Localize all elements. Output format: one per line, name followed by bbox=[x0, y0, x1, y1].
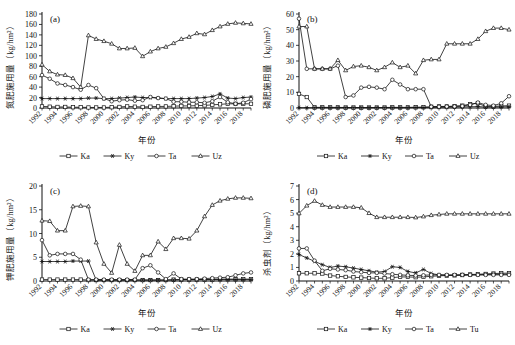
legend-label: Ky bbox=[382, 152, 392, 161]
legend-item-ka[interactable]: Ka bbox=[317, 152, 348, 161]
legend-item-uz[interactable]: Uz bbox=[192, 325, 223, 334]
y-tick-label: 15 bbox=[29, 206, 37, 215]
legend-label: Ka bbox=[338, 325, 348, 334]
y-tick-label: 7 bbox=[290, 182, 294, 191]
y-tick-label: 5 bbox=[33, 253, 37, 262]
x-tick-label: 2018 bbox=[486, 109, 503, 126]
chart-panel-b: 磷肥施用量（kg/hm²） 01020304050601992199419961… bbox=[257, 0, 515, 172]
series-ta bbox=[297, 17, 511, 109]
y-tick-label: 50 bbox=[286, 26, 294, 35]
x-tick-label: 2010 bbox=[423, 109, 440, 126]
x-tick-label: 2016 bbox=[470, 282, 487, 299]
x-tick-label: 2010 bbox=[166, 282, 183, 299]
x-tick-label: 1992 bbox=[283, 282, 300, 299]
legend-item-ta[interactable]: Ta bbox=[405, 152, 434, 161]
legend-label: Ka bbox=[338, 152, 348, 161]
legend-label: Ky bbox=[125, 325, 135, 334]
x-tick-label: 2012 bbox=[181, 109, 198, 126]
x-tick-label: 2008 bbox=[150, 282, 167, 299]
y-tick-label: 10 bbox=[286, 88, 294, 97]
legend-item-ky[interactable]: Ky bbox=[104, 325, 135, 334]
x-axis-label: 年份 bbox=[138, 308, 156, 318]
legend-label: Ky bbox=[125, 152, 135, 161]
legend-item-tu[interactable]: Tu bbox=[449, 325, 479, 334]
x-tick-label: 2000 bbox=[346, 109, 363, 126]
legend-label: Ka bbox=[81, 325, 91, 334]
y-tick-label: 30 bbox=[286, 57, 294, 66]
x-tick-label: 1994 bbox=[299, 282, 316, 299]
y-tick-label: 40 bbox=[286, 41, 294, 50]
panel-tag: (a) bbox=[50, 14, 60, 24]
legend-item-ky[interactable]: Ky bbox=[361, 152, 392, 161]
legend-item-ta[interactable]: Ta bbox=[405, 325, 434, 334]
legend-label: Uz bbox=[470, 152, 480, 161]
legend-label: Uz bbox=[213, 152, 223, 161]
y-tick-label: 2 bbox=[290, 250, 294, 259]
x-tick-label: 2016 bbox=[212, 282, 229, 299]
x-tick-label: 2008 bbox=[408, 282, 425, 299]
y-tick-label: 6 bbox=[290, 196, 294, 205]
x-tick-label: 2006 bbox=[392, 282, 409, 299]
x-tick-label: 1994 bbox=[42, 282, 59, 299]
y-tick-label: 20 bbox=[29, 94, 37, 103]
chart-panel-c: 钾肥施用量（kg/hm²） 05101520199219941996199820… bbox=[0, 172, 257, 345]
y-tick-label: 80 bbox=[29, 62, 37, 71]
y-tick-label: 20 bbox=[29, 182, 37, 191]
x-tick-label: 2016 bbox=[212, 109, 229, 126]
x-tick-label: 2002 bbox=[104, 109, 121, 126]
x-tick-label: 2006 bbox=[392, 109, 409, 126]
x-tick-label: 2002 bbox=[104, 282, 121, 299]
x-tick-label: 2008 bbox=[408, 109, 425, 126]
panel-tag: (c) bbox=[50, 186, 60, 196]
legend-item-uz[interactable]: Uz bbox=[192, 152, 223, 161]
plot-area-a: 0204060801001201401601801992199419961998… bbox=[0, 0, 257, 172]
y-tick-label: 180 bbox=[25, 10, 37, 19]
legend-label: Ta bbox=[169, 152, 177, 161]
legend-label: Ta bbox=[426, 152, 434, 161]
figure-container: 氮肥施用量（kg/hm²） 02040608010012014016018019… bbox=[0, 0, 515, 345]
x-tick-label: 2014 bbox=[197, 282, 214, 299]
x-tick-label: 2018 bbox=[228, 109, 245, 126]
legend-label: Ka bbox=[81, 152, 91, 161]
x-tick-label: 1994 bbox=[42, 109, 59, 126]
x-tick-label: 2010 bbox=[423, 282, 440, 299]
y-tick-label: 40 bbox=[29, 83, 37, 92]
legend-item-ky[interactable]: Ky bbox=[104, 152, 135, 161]
x-tick-label: 1992 bbox=[26, 282, 43, 299]
y-tick-label: 4 bbox=[290, 223, 294, 232]
x-tick-label: 1994 bbox=[299, 109, 316, 126]
series-uz bbox=[40, 21, 253, 89]
x-tick-label: 2004 bbox=[377, 109, 394, 126]
x-tick-label: 2004 bbox=[119, 282, 136, 299]
x-tick-label: 2010 bbox=[166, 109, 183, 126]
x-tick-label: 1998 bbox=[330, 109, 347, 126]
series-tu bbox=[297, 199, 511, 219]
y-tick-label: 5 bbox=[290, 209, 294, 218]
x-tick-label: 2012 bbox=[439, 109, 456, 126]
legend-item-ky[interactable]: Ky bbox=[361, 325, 392, 334]
legend-item-ta[interactable]: Ta bbox=[148, 152, 177, 161]
legend-item-ka[interactable]: Ka bbox=[60, 325, 91, 334]
x-axis-label: 年份 bbox=[395, 135, 413, 145]
x-tick-label: 2014 bbox=[197, 109, 214, 126]
y-tick-label: 3 bbox=[290, 236, 294, 245]
x-tick-label: 2014 bbox=[455, 282, 472, 299]
plot-area-b: 0102030405060199219941996199820002002200… bbox=[257, 0, 515, 172]
y-tick-label: 160 bbox=[25, 20, 37, 29]
x-tick-label: 1996 bbox=[315, 282, 332, 299]
panel-tag: (b) bbox=[307, 14, 318, 24]
legend-item-uz[interactable]: Uz bbox=[449, 152, 480, 161]
x-axis-label: 年份 bbox=[395, 308, 413, 318]
chart-panel-a: 氮肥施用量（kg/hm²） 02040608010012014016018019… bbox=[0, 0, 257, 172]
legend-item-ka[interactable]: Ka bbox=[317, 325, 348, 334]
x-axis-label: 年份 bbox=[138, 135, 156, 145]
x-tick-label: 1992 bbox=[283, 109, 300, 126]
legend-item-ta[interactable]: Ta bbox=[148, 325, 177, 334]
x-tick-label: 1996 bbox=[57, 109, 74, 126]
legend-item-ka[interactable]: Ka bbox=[60, 152, 91, 161]
legend-label: Ta bbox=[426, 325, 434, 334]
legend-label: Uz bbox=[213, 325, 223, 334]
y-tick-label: 60 bbox=[29, 73, 37, 82]
x-tick-label: 2018 bbox=[228, 282, 245, 299]
legend-label: Ta bbox=[169, 325, 177, 334]
